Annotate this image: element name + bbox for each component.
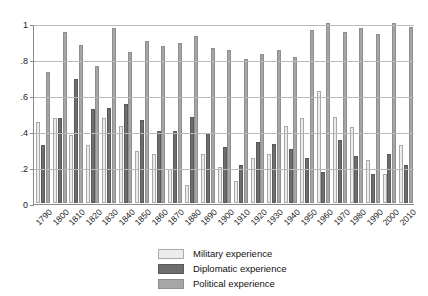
bar-pol <box>63 32 67 203</box>
bar-pol <box>161 46 165 203</box>
chart-legend: Military experienceDiplomatic experience… <box>158 246 348 291</box>
bar-dip <box>354 156 358 203</box>
legend-item-dip: Diplomatic experience <box>158 261 348 276</box>
x-axis-tick-label: 1930 <box>265 207 282 247</box>
bar-dip <box>157 131 161 203</box>
bar-group <box>249 25 265 203</box>
bar-pol <box>145 41 149 203</box>
bar-dip <box>223 147 227 203</box>
x-axis-tick-label: 1980 <box>348 207 365 247</box>
bar-group <box>365 25 381 203</box>
legend-swatch-pol <box>158 279 184 289</box>
bar-group <box>315 25 331 203</box>
bar-mil <box>350 127 354 203</box>
bar-mil <box>36 122 40 203</box>
x-axis-tick-label-text: 2010 <box>397 207 417 227</box>
bar-pol <box>178 43 182 203</box>
x-axis-tick-label: 2010 <box>397 207 414 247</box>
bar-mil <box>251 158 255 203</box>
gridline <box>34 61 414 62</box>
bar-group <box>299 25 315 203</box>
bar-mil <box>234 181 238 203</box>
bar-dip <box>124 104 128 203</box>
gridline <box>34 133 414 134</box>
bar-dip <box>41 145 45 203</box>
bar-group <box>266 25 282 203</box>
x-axis-tick-label: 1950 <box>298 207 315 247</box>
gridline <box>34 97 414 98</box>
x-axis-tick-label: 1920 <box>249 207 266 247</box>
x-axis-tick-label: 1830 <box>100 207 117 247</box>
bar-dip <box>91 109 95 203</box>
bar-dip <box>107 108 111 203</box>
bar-pol <box>343 32 347 203</box>
bar-group <box>134 25 150 203</box>
bar-dip <box>173 131 177 203</box>
bar-mil <box>366 160 370 203</box>
bar-groups <box>35 25 414 203</box>
x-axis-tick-label: 1990 <box>364 207 381 247</box>
bar-pol <box>79 45 83 203</box>
bar-dip <box>371 174 375 203</box>
bar-dip <box>190 117 194 203</box>
x-axis-tick-label: 1940 <box>282 207 299 247</box>
y-axis-tick-label: .8 <box>6 57 28 66</box>
x-axis-tick-label: 1900 <box>216 207 233 247</box>
bar-mil <box>201 154 205 203</box>
y-axis-tick <box>30 25 34 26</box>
legend-swatch-mil <box>158 249 184 259</box>
x-axis-tick-label: 1870 <box>166 207 183 247</box>
bar-pol <box>95 66 99 203</box>
bar-group <box>398 25 414 203</box>
x-axis-tick-label: 1960 <box>315 207 332 247</box>
legend-label-pol: Political experience <box>193 279 275 289</box>
gridline <box>34 169 414 170</box>
bar-mil <box>185 185 189 203</box>
y-axis-tick-label: .6 <box>6 93 28 102</box>
bar-pol <box>260 54 264 203</box>
bar-dip <box>321 172 325 203</box>
bar-dip <box>387 154 391 203</box>
legend-swatch-dip <box>158 264 184 274</box>
bar-dip <box>256 142 260 203</box>
bar-group <box>117 25 133 203</box>
bar-pol <box>277 50 281 203</box>
bar-group <box>216 25 232 203</box>
bar-mil <box>383 174 387 203</box>
x-axis-tick-label: 2000 <box>381 207 398 247</box>
x-axis-tick-label: 1970 <box>331 207 348 247</box>
y-axis-tick <box>30 205 34 206</box>
bar-dip <box>338 140 342 203</box>
bar-mil <box>53 118 57 203</box>
bar-pol <box>227 50 231 203</box>
x-axis-tick-label: 1910 <box>232 207 249 247</box>
y-axis-tick-label: 0 <box>6 201 28 210</box>
bar-mil <box>218 167 222 203</box>
bar-dip <box>58 118 62 203</box>
bar-mil <box>152 154 156 203</box>
x-axis-tick-label: 1890 <box>199 207 216 247</box>
gridline <box>34 25 414 26</box>
bar-group <box>200 25 216 203</box>
bar-mil <box>317 91 321 203</box>
bar-mil <box>119 126 123 203</box>
plot-area <box>33 25 414 205</box>
bar-mil <box>399 145 403 203</box>
bar-pol <box>293 57 297 203</box>
bar-group <box>332 25 348 203</box>
x-axis-tick-label: 1860 <box>150 207 167 247</box>
bar-mil <box>284 126 288 203</box>
bar-group <box>381 25 397 203</box>
bar-pol <box>326 23 330 203</box>
bar-chart: 0.2.4.6.81 17901800181018201830184018501… <box>0 0 428 296</box>
y-axis-tick <box>30 97 34 98</box>
y-axis-tick <box>30 133 34 134</box>
bar-dip <box>305 158 309 203</box>
bar-dip <box>404 165 408 203</box>
bar-mil <box>102 118 106 203</box>
bar-group <box>167 25 183 203</box>
x-axis-tick-label: 1840 <box>117 207 134 247</box>
bar-pol <box>392 23 396 203</box>
legend-label-mil: Military experience <box>193 249 272 259</box>
bar-pol <box>310 30 314 203</box>
